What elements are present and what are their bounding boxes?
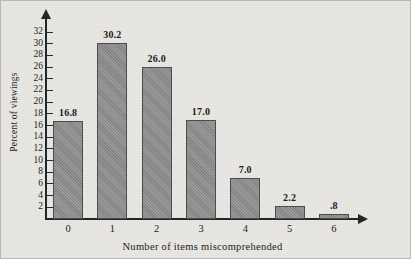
y-axis-title: Percent of viewings bbox=[9, 52, 19, 172]
y-axis-tick-label: 30 bbox=[19, 39, 43, 49]
bar bbox=[275, 206, 305, 219]
y-axis-tick-label-text: 10 bbox=[23, 156, 43, 166]
y-axis-tick-label-text: 8 bbox=[23, 167, 43, 177]
y-axis-tick bbox=[47, 43, 53, 44]
bar-value-label: 2.2 bbox=[268, 193, 312, 203]
bar bbox=[186, 120, 216, 219]
bar bbox=[319, 214, 349, 219]
y-axis-tick-label-text: 16 bbox=[23, 121, 43, 131]
x-axis-tick-label: 6 bbox=[319, 223, 349, 234]
bar-value-label: 26.0 bbox=[135, 54, 179, 64]
y-axis-tick-label-text: 32 bbox=[23, 27, 43, 37]
y-axis-tick-label: 12 bbox=[19, 144, 43, 154]
y-axis-tick-label-text: 20 bbox=[23, 97, 43, 107]
x-axis-tick-label: 5 bbox=[275, 223, 305, 234]
y-axis-tick-label: 2 bbox=[19, 202, 43, 212]
y-axis-tick-label-text: 30 bbox=[23, 39, 43, 49]
y-axis-tick-label: 6 bbox=[19, 179, 43, 189]
y-axis-tick bbox=[47, 172, 53, 173]
bar bbox=[230, 178, 260, 219]
arrow-right-icon bbox=[358, 214, 368, 224]
y-axis-tick-label: 22 bbox=[19, 85, 43, 95]
y-axis-tick-label-text: 22 bbox=[23, 85, 43, 95]
y-axis-tick-label: 26 bbox=[19, 62, 43, 72]
y-axis-tick-label: 28 bbox=[19, 50, 43, 60]
y-axis-tick-label-text: 24 bbox=[23, 74, 43, 84]
y-axis-tick-label: 20 bbox=[19, 97, 43, 107]
bar bbox=[142, 67, 172, 219]
x-axis-tick-label: 1 bbox=[97, 223, 127, 234]
y-axis-tick-label-text: 26 bbox=[23, 62, 43, 72]
y-axis-tick bbox=[47, 195, 53, 196]
y-axis-tick bbox=[47, 102, 53, 103]
y-axis-tick-label-text: 12 bbox=[23, 144, 43, 154]
x-axis-title: Number of items miscomprehended bbox=[45, 241, 360, 252]
y-axis-tick bbox=[47, 67, 53, 68]
bar bbox=[53, 121, 83, 219]
y-axis-tick-label: 32 bbox=[19, 27, 43, 37]
y-axis-tick bbox=[47, 55, 53, 56]
bar-value-label: 30.2 bbox=[90, 30, 134, 40]
y-axis-tick bbox=[47, 183, 53, 184]
y-axis-tick bbox=[47, 90, 53, 91]
y-axis-tick-label: 24 bbox=[19, 74, 43, 84]
bar-value-label: 7.0 bbox=[223, 165, 267, 175]
y-axis-tick bbox=[47, 78, 53, 79]
arrow-up-icon bbox=[41, 9, 51, 19]
y-axis-tick bbox=[47, 32, 53, 33]
x-axis-tick-label: 3 bbox=[186, 223, 216, 234]
y-axis-line bbox=[45, 17, 47, 220]
y-axis-tick-label-text: 6 bbox=[23, 179, 43, 189]
x-axis-tick-label: 2 bbox=[142, 223, 172, 234]
y-axis-tick bbox=[47, 160, 53, 161]
y-axis-tick-label-text: 4 bbox=[23, 191, 43, 201]
bar bbox=[97, 43, 127, 219]
x-axis-tick-label: 4 bbox=[230, 223, 260, 234]
y-axis-tick-label-text: 14 bbox=[23, 132, 43, 142]
bar-chart-figure: Percent of viewings Number of items misc… bbox=[0, 0, 411, 259]
y-axis-tick bbox=[47, 148, 53, 149]
plot-area: Percent of viewings Number of items misc… bbox=[1, 1, 411, 259]
y-axis-tick bbox=[47, 125, 53, 126]
y-axis-tick bbox=[47, 137, 53, 138]
x-axis-tick-label: 0 bbox=[53, 223, 83, 234]
y-axis-tick-label: 16 bbox=[19, 121, 43, 131]
y-axis-tick-label: 10 bbox=[19, 156, 43, 166]
y-axis-tick-label-text: 18 bbox=[23, 109, 43, 119]
bar-value-label: 16.8 bbox=[46, 108, 90, 118]
y-axis-tick bbox=[47, 207, 53, 208]
y-axis-tick-label: 14 bbox=[19, 132, 43, 142]
y-axis-tick-label-text: 2 bbox=[23, 202, 43, 212]
bar-value-label: 17.0 bbox=[179, 107, 223, 117]
y-axis-tick-label: 4 bbox=[19, 191, 43, 201]
y-axis-tick-label: 18 bbox=[19, 109, 43, 119]
bar-value-label: .8 bbox=[312, 201, 356, 211]
y-axis-tick-label-text: 28 bbox=[23, 50, 43, 60]
y-axis-tick-label: 8 bbox=[19, 167, 43, 177]
